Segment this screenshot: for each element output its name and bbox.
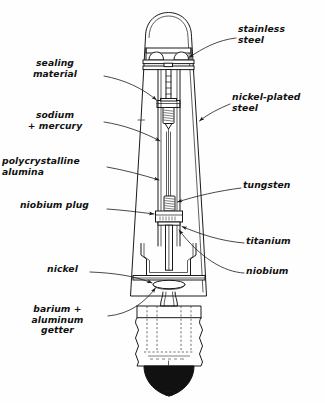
label-niobium-plug: niobium plug bbox=[4, 200, 105, 211]
label-stainless-steel: stainless steel bbox=[238, 24, 322, 45]
leader-titanium bbox=[182, 227, 244, 244]
label-sodium-mercury: sodium + mercury bbox=[8, 110, 102, 131]
label-tungsten: tungsten bbox=[243, 180, 321, 191]
leader-tungsten bbox=[178, 188, 242, 202]
upper-tungsten-electrode bbox=[163, 108, 174, 130]
leader-polycrystalline-alumina bbox=[107, 167, 159, 180]
niobium-plug bbox=[156, 211, 183, 270]
leader-stainless-steel bbox=[189, 38, 236, 58]
leader-sodium-mercury bbox=[104, 122, 160, 141]
label-polycrystalline-alumina: polycrystalline alumina bbox=[2, 156, 105, 177]
edison-screw-base bbox=[136, 306, 203, 396]
leader-nickel-plated-steel bbox=[200, 104, 231, 121]
label-nickel: nickel bbox=[20, 264, 105, 275]
label-niobium: niobium bbox=[246, 266, 320, 277]
lamp-cutaway-diagram: .ln{fill:none;stroke:#1a1a1a;stroke-widt… bbox=[0, 0, 325, 403]
label-barium-aluminum-getter: barium + aluminum getter bbox=[10, 304, 105, 336]
label-nickel-plated-steel: nickel-plated steel bbox=[232, 92, 322, 113]
upper-seal-assembly bbox=[157, 99, 180, 108]
arc-tube-interior-rod bbox=[167, 129, 171, 207]
nickel-disc-getter bbox=[153, 280, 185, 306]
leader-niobium bbox=[179, 230, 244, 273]
upper-lead-wire bbox=[166, 70, 171, 101]
label-sealing-material: sealing material bbox=[8, 58, 102, 79]
leader-niobium-plug bbox=[107, 209, 154, 214]
stainless-steel-top-frame bbox=[143, 48, 194, 70]
lower-tungsten-electrode bbox=[164, 196, 175, 211]
leader-sealing-material bbox=[104, 76, 157, 100]
leader-getter bbox=[108, 288, 156, 316]
label-titanium: titanium bbox=[246, 236, 320, 247]
